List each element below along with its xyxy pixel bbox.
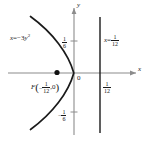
fraction-numerator: 1 bbox=[61, 109, 66, 116]
parabola-figure: x y 0 1 6 − 1 6 1 12 x=−3y2 x= 1 12 F bbox=[0, 0, 147, 142]
close-paren: ) bbox=[56, 81, 60, 93]
fraction-one-sixth: 1 6 bbox=[61, 109, 66, 123]
fraction-denominator: 6 bbox=[62, 43, 67, 49]
fraction-denominator: 12 bbox=[103, 88, 111, 94]
origin-label: 0 bbox=[77, 75, 81, 82]
y-axis-label: y bbox=[77, 2, 80, 9]
tick-label-y-positive-sixth: 1 6 bbox=[62, 33, 67, 49]
focus-point-label: F(− 1 12 ,0) bbox=[31, 81, 59, 95]
y-axis-arrowhead bbox=[72, 8, 77, 14]
fraction-one-twelfth: 1 12 bbox=[111, 34, 119, 48]
fraction-denominator: 12 bbox=[111, 41, 119, 47]
figure-canvas bbox=[0, 0, 147, 142]
directrix-equation-label: x= 1 12 bbox=[104, 34, 119, 48]
fraction-denominator: 6 bbox=[61, 116, 66, 122]
x-axis-label: x bbox=[138, 66, 141, 73]
focus-dot bbox=[54, 70, 59, 75]
fraction-one-sixth: 1 6 bbox=[62, 36, 67, 50]
equation-exponent: 2 bbox=[28, 33, 31, 38]
fraction-numerator: 1 bbox=[103, 81, 111, 88]
curve-equation-label: x=−3y2 bbox=[10, 33, 30, 42]
fraction-numerator: 1 bbox=[111, 34, 119, 41]
equation-coefficient: −3 bbox=[17, 34, 24, 42]
fraction-one-twelfth: 1 12 bbox=[103, 81, 111, 95]
x-axis-arrowhead bbox=[130, 71, 136, 76]
tick-label-x-twelfth: 1 12 bbox=[103, 78, 111, 94]
tick-label-y-negative-sixth: − 1 6 bbox=[58, 106, 66, 122]
fraction-numerator: 1 bbox=[62, 36, 67, 43]
